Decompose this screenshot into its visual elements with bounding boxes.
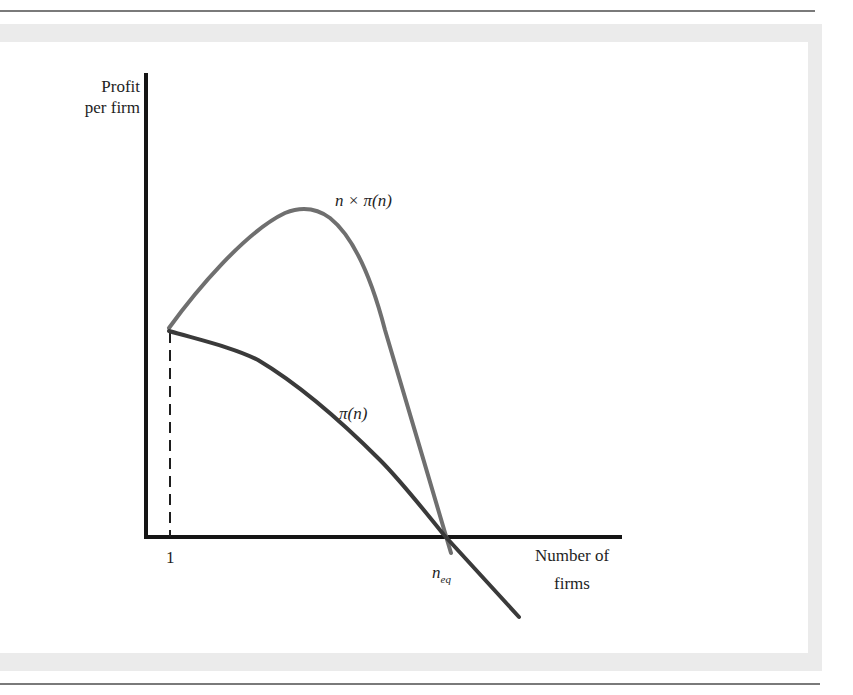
y-axis-label-line1: Profit (62, 76, 140, 97)
tick-label-one: 1 (166, 547, 175, 568)
tick-label-neq: neq (432, 562, 451, 585)
curve-total-profit (169, 209, 451, 553)
x-axis-label: Number of firms (518, 542, 626, 598)
x-axis-label-line2: firms (518, 570, 626, 598)
tick-label-neq-subscript: eq (441, 573, 451, 585)
y-axis-label-line2: per firm (62, 97, 140, 118)
curve-label-profit-per-firm: π(n) (339, 403, 367, 424)
curve-label-total-profit: n × π(n) (335, 190, 392, 211)
x-axis-label-line1: Number of (518, 542, 626, 570)
curve-profit-per-firm (169, 331, 519, 617)
y-axis-label: Profit per firm (62, 76, 140, 118)
tick-label-neq-base: n (432, 563, 441, 582)
